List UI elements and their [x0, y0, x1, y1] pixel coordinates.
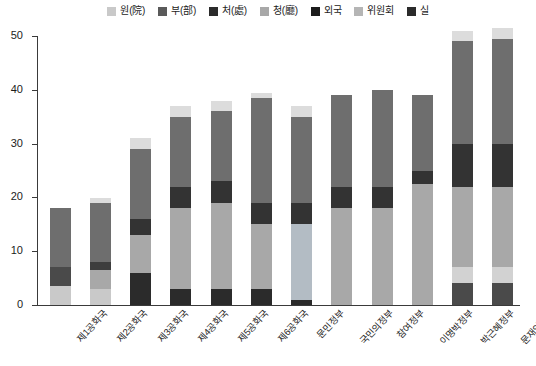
bar-segment [291, 106, 312, 117]
bar-segment [251, 98, 272, 203]
x-tick-label-4: 제5공화국 [234, 306, 271, 345]
x-tick-label-0: 제1공화국 [73, 306, 110, 345]
bar-segment [90, 198, 111, 202]
legend-label: 부(部) [171, 6, 196, 16]
bar-segment [170, 289, 191, 305]
x-tick-label-7: 국민의정부 [356, 306, 396, 347]
bar-segment [90, 262, 111, 270]
bar-segment [412, 184, 433, 305]
bar-segment [452, 267, 473, 283]
legend-label: 위원회 [367, 6, 393, 16]
bar-segment [50, 208, 71, 267]
bar-segment [130, 235, 151, 273]
bar-segment [452, 144, 473, 187]
bar-5[interactable] [251, 36, 272, 305]
bar-segment [492, 144, 513, 187]
legend-swatch-icon [107, 7, 116, 16]
legend-item-2[interactable]: 처(處) [209, 6, 247, 16]
bar-8[interactable] [372, 36, 393, 305]
bar-segment [492, 187, 513, 268]
bar-segment [211, 289, 232, 305]
x-tick-label-5: 제6공화국 [274, 306, 311, 345]
bar-segment [331, 208, 352, 305]
legend-item-5[interactable]: 위원회 [354, 6, 393, 16]
bar-segment [291, 300, 312, 305]
x-tick-label-1: 제2공화국 [113, 306, 150, 345]
y-tick-label: 50 [0, 29, 23, 42]
bar-11[interactable] [492, 36, 513, 305]
bar-10[interactable] [452, 36, 473, 305]
bar-segment [251, 224, 272, 289]
bar-segment [251, 289, 272, 305]
bar-segment [331, 95, 352, 186]
bar-segment [130, 273, 151, 305]
chart-legend: 원(院)부(部)처(處)청(廳)외국위원회실 [0, 6, 536, 16]
bar-segment [492, 283, 513, 305]
bar-segment [372, 187, 393, 209]
legend-label: 청(廳) [273, 6, 298, 16]
plot-area: 01020304050 [37, 36, 520, 305]
bar-6[interactable] [291, 36, 312, 305]
legend-label: 외국 [324, 6, 342, 16]
bar-segment [170, 208, 191, 289]
y-tick-label: 20 [0, 190, 23, 203]
bar-4[interactable] [211, 36, 232, 305]
bar-segment [291, 117, 312, 203]
bar-segment [452, 41, 473, 143]
bar-segment [170, 117, 191, 187]
bar-segment [251, 203, 272, 225]
bar-segment [291, 203, 312, 225]
bar-segment [50, 267, 71, 286]
legend-swatch-icon [311, 7, 320, 16]
bar-segment [90, 270, 111, 289]
legend-item-3[interactable]: 청(廳) [260, 6, 298, 16]
bar-7[interactable] [331, 36, 352, 305]
y-tick-label: 40 [0, 83, 23, 96]
bar-segment [331, 187, 352, 209]
bar-segment [492, 28, 513, 39]
bar-segment [211, 181, 232, 203]
bar-segment [412, 95, 433, 170]
stacked-bar-chart: 원(院)부(部)처(處)청(廳)외국위원회실 01020304050 제1공화국… [0, 0, 536, 366]
legend-item-1[interactable]: 부(部) [158, 6, 196, 16]
x-tick-label-9: 이명박정부 [436, 306, 476, 347]
bar-segment [50, 286, 71, 305]
x-tick-label-11: 문재인정부 [517, 306, 536, 347]
legend-item-0[interactable]: 원(院) [107, 6, 145, 16]
bar-segment [412, 171, 433, 184]
legend-label: 원(院) [120, 6, 145, 16]
bar-segment [211, 101, 232, 112]
x-axis-labels: 제1공화국제2공화국제3공화국제4공화국제5공화국제6공화국문민정부국민의정부참… [37, 306, 520, 366]
bar-segment [291, 224, 312, 299]
bar-segment [372, 208, 393, 305]
y-tick-label: 10 [0, 244, 23, 257]
legend-label: 실 [420, 6, 429, 16]
bar-2[interactable] [130, 36, 151, 305]
bar-segment [251, 93, 272, 98]
legend-item-6[interactable]: 실 [407, 6, 429, 16]
legend-swatch-icon [260, 7, 269, 16]
legend-swatch-icon [209, 7, 218, 16]
bars-layer [37, 36, 520, 305]
bar-segment [130, 219, 151, 235]
bar-0[interactable] [50, 36, 71, 305]
bar-3[interactable] [170, 36, 191, 305]
bar-segment [130, 149, 151, 219]
y-tick-label: 0 [0, 298, 23, 311]
bar-segment [170, 187, 191, 209]
legend-swatch-icon [354, 7, 363, 16]
bar-segment [492, 267, 513, 283]
bar-segment [372, 90, 393, 187]
bar-segment [452, 283, 473, 305]
bar-segment [452, 31, 473, 42]
bar-segment [130, 138, 151, 149]
legend-item-4[interactable]: 외국 [311, 6, 342, 16]
x-tick-label-6: 문민정부 [313, 306, 347, 341]
bar-segment [90, 203, 111, 262]
legend-label: 처(處) [222, 6, 247, 16]
bar-segment [170, 106, 191, 117]
legend-swatch-icon [407, 7, 416, 16]
bar-9[interactable] [412, 36, 433, 305]
bar-segment [492, 39, 513, 144]
bar-1[interactable] [90, 36, 111, 305]
